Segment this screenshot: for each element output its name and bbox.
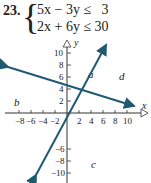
boundary-line-2 [8, 67, 134, 106]
svg-text:−4: −4 [38, 116, 48, 126]
svg-text:10: 10 [54, 48, 64, 58]
coordinate-graph: −8−6−4−2 246810 108642 −6−8−10 x y a b c… [0, 0, 151, 183]
svg-text:−8: −8 [55, 156, 65, 166]
svg-text:y: y [73, 37, 79, 48]
svg-text:−8: −8 [15, 116, 25, 126]
svg-text:6: 6 [59, 72, 64, 82]
svg-text:4: 4 [89, 116, 94, 126]
svg-text:10: 10 [123, 116, 133, 126]
svg-text:b: b [14, 96, 20, 108]
svg-text:x: x [141, 100, 147, 111]
svg-text:−10: −10 [51, 168, 66, 178]
svg-text:4: 4 [59, 84, 64, 94]
svg-text:−2: −2 [50, 116, 60, 126]
svg-text:c: c [91, 158, 96, 170]
svg-text:−6: −6 [55, 144, 65, 154]
svg-text:−6: −6 [26, 116, 36, 126]
svg-text:6: 6 [101, 116, 106, 126]
svg-text:2: 2 [59, 96, 64, 106]
boundary-line-1 [36, 45, 106, 175]
svg-text:8: 8 [113, 116, 118, 126]
svg-text:2: 2 [77, 116, 82, 126]
svg-text:8: 8 [59, 60, 64, 70]
svg-text:d: d [119, 70, 125, 82]
